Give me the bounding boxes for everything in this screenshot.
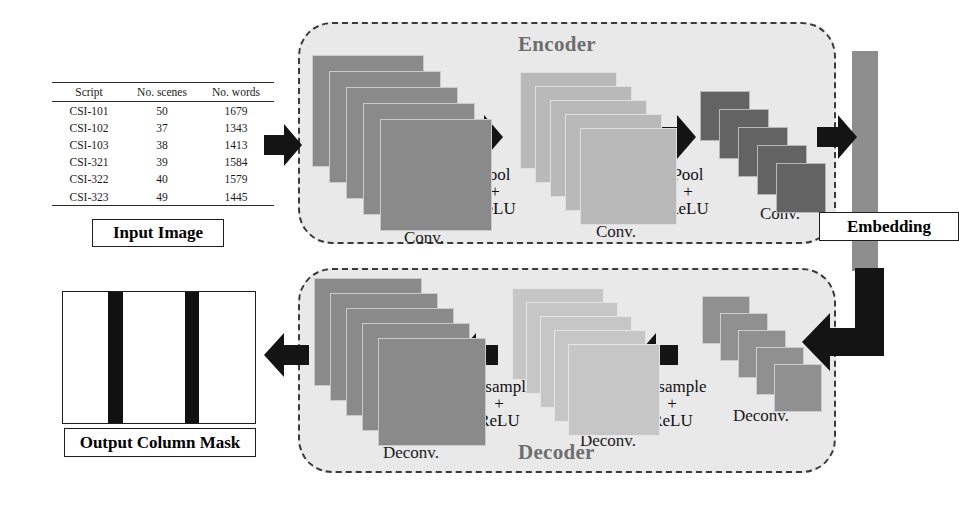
encoder-conv-block-2 [520, 72, 677, 225]
encoder-conv-caption-2: Conv. [596, 222, 636, 242]
embedding-label: Embedding [819, 212, 959, 241]
cell-words: 1579 [198, 171, 274, 188]
cell-script: CSI-321 [52, 154, 126, 171]
input-table-container: Script No. scenes No. words CSI-101 50 1… [52, 82, 274, 206]
encoder-title: Encoder [518, 32, 596, 57]
output-column-mask-label: Output Column Mask [64, 428, 256, 457]
cell-scenes: 49 [126, 188, 198, 206]
mask-column-bar [108, 292, 123, 423]
script-statistics-table: Script No. scenes No. words CSI-101 50 1… [52, 82, 274, 206]
table-body: CSI-101 50 1679 CSI-102 37 1343 CSI-103 … [52, 102, 274, 206]
feature-map-card [580, 128, 677, 225]
table-header-script: Script [52, 83, 126, 102]
output-column-mask-image [62, 291, 256, 424]
cell-words: 1679 [198, 102, 274, 120]
input-image-label: Input Image [92, 219, 224, 247]
cell-scenes: 40 [126, 171, 198, 188]
feature-map-card [568, 344, 660, 436]
table-header-no-words: No. words [198, 83, 274, 102]
mask-column-bar [185, 292, 199, 423]
table-row: CSI-103 38 1413 [52, 136, 274, 153]
cell-script: CSI-323 [52, 188, 126, 206]
feature-map-card [378, 338, 486, 446]
cell-script: CSI-101 [52, 102, 126, 120]
table-row: CSI-323 49 1445 [52, 188, 274, 206]
decoder-deconv-block-3 [314, 278, 486, 446]
feature-map-card [380, 119, 492, 231]
cell-scenes: 37 [126, 119, 198, 136]
input-to-encoder-arrow-icon [262, 121, 304, 169]
decoder-to-output-arrow-icon [261, 330, 311, 380]
cell-script: CSI-102 [52, 119, 126, 136]
encoder-conv-block-1 [312, 55, 492, 231]
table-header-no-scenes: No. scenes [126, 83, 198, 102]
table-header-row: Script No. scenes No. words [52, 83, 274, 102]
cell-script: CSI-322 [52, 171, 126, 188]
encoder-to-embedding-arrow-icon [817, 112, 859, 162]
feature-map-card [776, 163, 826, 213]
decoder-deconv-caption-3: Deconv. [383, 443, 439, 463]
embedding-to-decoder-elbow-arrow-icon [800, 268, 910, 376]
table-row: CSI-321 39 1584 [52, 154, 274, 171]
cell-scenes: 50 [126, 102, 198, 120]
feature-map-card [774, 364, 822, 412]
cell-script: CSI-103 [52, 136, 126, 153]
table-row: CSI-101 50 1679 [52, 102, 274, 120]
cell-words: 1445 [198, 188, 274, 206]
encoder-conv-block-3 [700, 91, 826, 213]
table-row: CSI-102 37 1343 [52, 119, 274, 136]
table-row: CSI-322 40 1579 [52, 171, 274, 188]
cell-scenes: 38 [126, 136, 198, 153]
cell-scenes: 39 [126, 154, 198, 171]
encoder-conv-caption-1: Conv. [404, 228, 444, 248]
